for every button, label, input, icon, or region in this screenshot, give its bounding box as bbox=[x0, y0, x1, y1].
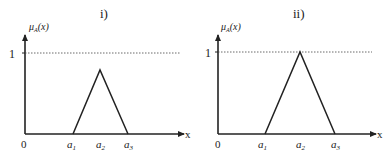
tick-a2: a2 bbox=[96, 138, 106, 152]
origin-label: 0 bbox=[215, 138, 221, 150]
panel-i: i) μA(x) 1 0 x a1 a2 a3 bbox=[9, 6, 191, 152]
tick-a2: a2 bbox=[296, 138, 306, 152]
membership-triangle bbox=[73, 70, 128, 134]
figure: i) μA(x) 1 0 x a1 a2 a3 ii) μA(x) 1 0 x … bbox=[0, 0, 391, 155]
one-label: 1 bbox=[205, 46, 211, 60]
tick-a3: a3 bbox=[331, 138, 341, 152]
y-axis-label: μA(x) bbox=[220, 21, 241, 33]
panel-ii: ii) μA(x) 1 0 x a1 a2 a3 bbox=[205, 6, 383, 152]
y-axis-label: μA(x) bbox=[28, 21, 49, 33]
tick-a1: a1 bbox=[67, 138, 76, 152]
tick-a1: a1 bbox=[258, 138, 267, 152]
x-axis-label: x bbox=[185, 128, 191, 140]
panel-title: i) bbox=[100, 6, 108, 21]
tick-a3: a3 bbox=[124, 138, 134, 152]
origin-label: 0 bbox=[21, 138, 27, 150]
x-axis-label: x bbox=[377, 128, 383, 140]
one-label: 1 bbox=[9, 47, 15, 61]
membership-triangle bbox=[265, 52, 335, 134]
panel-title: ii) bbox=[293, 6, 305, 21]
